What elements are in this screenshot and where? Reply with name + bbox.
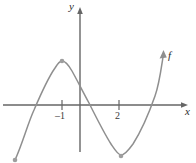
- curve-arrow-icon: [160, 50, 167, 59]
- curve-start-dot: [13, 158, 18, 163]
- function-graph-figure: y x f –1 2: [0, 0, 196, 163]
- local-minimum-dot: [119, 154, 124, 159]
- y-axis: [77, 7, 83, 152]
- y-axis-label: y: [69, 1, 74, 12]
- curve-markers: [13, 59, 124, 163]
- y-axis-arrow-icon: [77, 7, 83, 14]
- local-maximum-dot: [60, 59, 65, 64]
- x-axis: [3, 102, 188, 108]
- graph-canvas: [0, 0, 196, 163]
- x-axis-label: x: [185, 106, 190, 117]
- function-name-label: f: [168, 50, 171, 61]
- x-tick-label-two: 2: [115, 111, 120, 121]
- curve-path: [15, 57, 163, 160]
- x-tick-label-neg-one: –1: [55, 111, 65, 121]
